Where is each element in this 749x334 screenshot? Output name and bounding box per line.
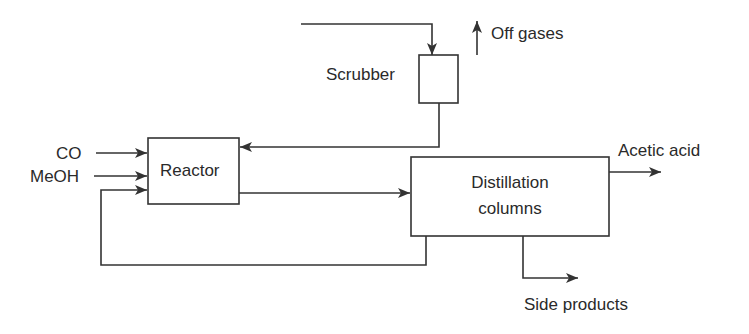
feed-to-scrubber-arrow — [301, 24, 432, 55]
scrubber-box — [419, 55, 458, 103]
recycle-arrow — [101, 190, 426, 265]
reactor-label: Reactor — [160, 162, 220, 179]
co-label: CO — [56, 145, 82, 162]
side-products-arrow — [523, 236, 578, 278]
side-products-label: Side products — [524, 296, 628, 313]
scrubber-label: Scrubber — [326, 66, 395, 83]
process-flow-diagram: Scrubber Reactor Distillation columns Of… — [0, 0, 749, 334]
scrubber-to-reactor-arrow — [240, 103, 439, 147]
meoh-label: MeOH — [30, 168, 79, 185]
distillation-label-line1: Distillation — [411, 170, 609, 196]
acetic-acid-label: Acetic acid — [618, 142, 700, 159]
distillation-label: Distillation columns — [411, 170, 609, 222]
off-gases-label: Off gases — [491, 25, 563, 42]
distillation-label-line2: columns — [411, 196, 609, 222]
diagram-lines — [0, 0, 749, 334]
